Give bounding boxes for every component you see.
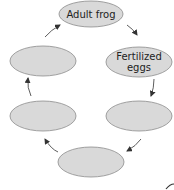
fertilized-eggs-label: Fertilized eggs	[116, 51, 161, 73]
arrow-stage3-to-stage4	[127, 139, 141, 151]
arrow-stage6-to-adult	[45, 25, 60, 37]
label-fertilized-eggs: Fertilized eggs	[106, 48, 172, 76]
node-stage-5	[10, 101, 76, 131]
arrow-stage4-to-stage5	[45, 139, 58, 152]
frog-life-cycle-diagram: Adult frog Fertilized eggs	[0, 0, 174, 190]
arrow-eggs-to-stage3	[151, 79, 154, 96]
adult-frog-label: Adult frog	[66, 9, 115, 20]
arrow-stage5-to-stage6	[28, 78, 31, 96]
node-stage-4	[58, 147, 124, 177]
cycle-graphics	[0, 0, 174, 190]
label-adult-frog: Adult frog	[59, 2, 123, 26]
arrow-adult-to-eggs	[127, 25, 137, 35]
node-stage-6	[10, 46, 76, 76]
node-stage-3	[106, 101, 172, 131]
corner-mark	[166, 184, 174, 189]
